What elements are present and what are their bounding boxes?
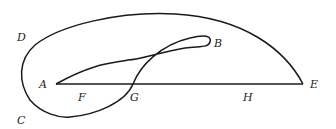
label-g: G [130,92,139,103]
label-f: F [78,92,86,103]
outer-curve [22,14,303,118]
label-a: A [39,79,47,90]
label-e: E [310,79,318,90]
label-d: D [17,32,26,43]
label-h: H [243,92,253,103]
diagram-canvas [0,0,336,129]
label-c: C [17,115,25,126]
label-b: B [214,38,222,49]
